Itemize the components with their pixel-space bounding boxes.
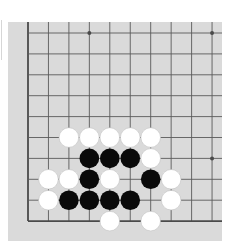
white-stone [59,128,79,148]
grid-lines [28,22,222,221]
go-diagram [0,0,239,248]
black-stone [100,190,120,210]
white-stone [141,211,161,231]
black-stone [80,190,100,210]
white-stone [161,170,181,190]
white-stone [120,128,140,148]
black-stone [80,170,100,190]
cropped-border-line [1,20,2,60]
white-stone [100,128,120,148]
star-point [210,156,214,160]
black-stone [59,190,79,210]
black-stone [100,149,120,169]
star-point [210,31,214,35]
white-stone [80,128,100,148]
white-stone [39,170,59,190]
go-board[interactable] [8,22,222,241]
white-stone [100,170,120,190]
white-stone [161,190,181,210]
star-point [87,31,91,35]
black-stone [80,149,100,169]
board-grid [8,22,222,241]
stones [39,128,181,231]
black-stone [141,170,161,190]
black-stone [120,190,140,210]
black-stone [120,149,140,169]
white-stone [100,211,120,231]
white-stone [141,149,161,169]
white-stone [141,128,161,148]
white-stone [59,170,79,190]
white-stone [39,190,59,210]
